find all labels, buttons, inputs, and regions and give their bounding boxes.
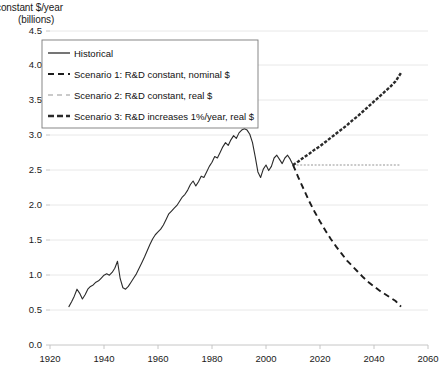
legend-label-historical: Historical — [74, 48, 113, 59]
ytick-label-0-5: 0.5 — [29, 304, 42, 315]
xtick-label-1940: 1940 — [93, 353, 114, 364]
legend-label-scenario-1: Scenario 1: R&D constant, nominal $ — [74, 69, 230, 80]
xtick-label-2020: 2020 — [309, 353, 330, 364]
xtick-label-1920: 1920 — [39, 353, 60, 364]
xtick-label-2040: 2040 — [363, 353, 384, 364]
ytick-label-0-0: 0.0 — [29, 339, 42, 350]
xtick-label-2060: 2060 — [417, 353, 438, 364]
ytick-label-3-0: 3.0 — [29, 129, 42, 140]
series-line-scenario-3 — [293, 73, 401, 165]
xtick-label-2000: 2000 — [255, 353, 276, 364]
legend-item-scenario-1[interactable]: Scenario 1: R&D constant, nominal $ — [48, 69, 230, 80]
chart-container: constant $/year (billions) — [0, 0, 441, 377]
legend-label-scenario-2: Scenario 2: R&D constant, real $ — [74, 90, 213, 101]
ytick-label-2-5: 2.5 — [29, 164, 42, 175]
x-axis-tick-labels: 1920 1940 1960 1980 2000 2020 2040 2060 — [39, 353, 438, 364]
ytick-label-1-0: 1.0 — [29, 269, 42, 280]
xtick-label-1960: 1960 — [147, 353, 168, 364]
legend-item-scenario-3[interactable]: Scenario 3: R&D increases 1%/year, real … — [48, 111, 255, 122]
x-axis-ticks — [50, 345, 428, 349]
series-line-scenario-1 — [293, 165, 401, 307]
legend-label-scenario-3: Scenario 3: R&D increases 1%/year, real … — [74, 111, 255, 122]
xtick-label-1980: 1980 — [201, 353, 222, 364]
ytick-label-4-5: 4.5 — [29, 25, 42, 36]
y-axis-tick-labels: 4.5 4.0 3.5 3.0 2.5 2.0 1.5 1.0 0.5 0.0 — [29, 25, 42, 350]
ytick-label-4-0: 4.0 — [29, 59, 42, 70]
ytick-label-3-5: 3.5 — [29, 94, 42, 105]
chart-svg: 4.5 4.0 3.5 3.0 2.5 2.0 1.5 1.0 0.5 0.0 … — [0, 0, 441, 377]
series-line-historical — [69, 129, 293, 307]
ytick-label-1-5: 1.5 — [29, 234, 42, 245]
ytick-label-2-0: 2.0 — [29, 199, 42, 210]
legend: Historical Scenario 1: R&D constant, nom… — [42, 40, 258, 128]
